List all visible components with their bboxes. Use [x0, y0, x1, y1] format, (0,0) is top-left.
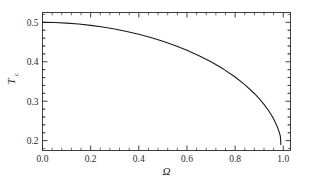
y-tick-label: 0.5 [27, 18, 39, 28]
x-tick-label: 0.8 [229, 154, 241, 164]
x-axis-title: Ω [163, 165, 171, 177]
y-axis-title-text: T [5, 78, 17, 85]
x-tick-label: 0.6 [181, 154, 193, 164]
figure-container: 0.00.20.40.60.81.0 0.20.30.40.5 Ω Tc [0, 0, 313, 183]
x-tick-label: 1.0 [277, 154, 289, 164]
x-tick-label: 0.2 [85, 154, 97, 164]
y-axis-title-subscript: c [12, 73, 20, 76]
x-axis-title-text: Ω [163, 165, 171, 177]
y-tick-label: 0.3 [27, 97, 39, 107]
chart-plot: 0.00.20.40.60.81.0 0.20.30.40.5 Ω Tc [0, 0, 313, 183]
y-tick-label: 0.2 [27, 136, 39, 146]
x-tick-label: 0.4 [133, 154, 145, 164]
x-tick-label: 0.0 [37, 154, 49, 164]
y-tick-label: 0.4 [27, 57, 39, 67]
